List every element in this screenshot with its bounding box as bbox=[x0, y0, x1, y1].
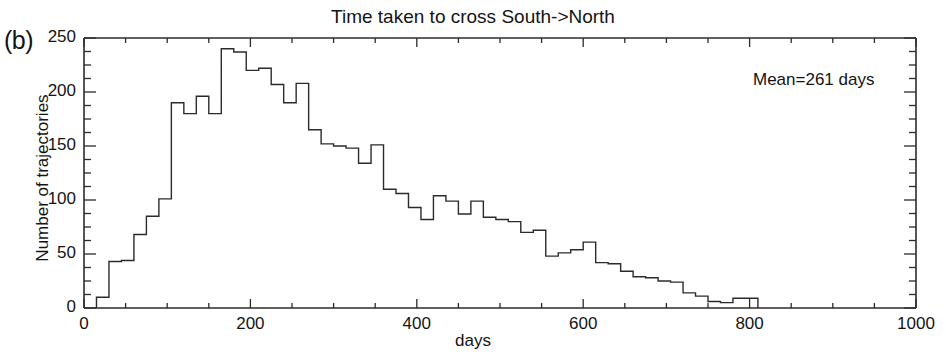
y-tick-label: 100 bbox=[12, 189, 76, 209]
x-tick-label: 200 bbox=[210, 314, 290, 334]
x-tick-label: 1000 bbox=[876, 314, 946, 334]
x-tick-label: 600 bbox=[543, 314, 623, 334]
y-tick-label: 250 bbox=[12, 27, 76, 47]
x-axis-title: days bbox=[0, 331, 946, 351]
histogram-figure: (b) Time taken to cross South->North Mea… bbox=[0, 0, 946, 357]
mean-annotation: Mean=261 days bbox=[753, 70, 874, 90]
x-tick-label: 800 bbox=[710, 314, 790, 334]
chart-title: Time taken to cross South->North bbox=[0, 6, 946, 28]
plot-area bbox=[0, 0, 946, 357]
y-tick-label: 200 bbox=[12, 81, 76, 101]
x-tick-label: 400 bbox=[377, 314, 457, 334]
histogram-step-line bbox=[96, 49, 757, 308]
y-tick-label: 150 bbox=[12, 135, 76, 155]
x-tick-label: 0 bbox=[44, 314, 124, 334]
y-tick-label: 0 bbox=[12, 297, 76, 317]
y-tick-label: 50 bbox=[12, 243, 76, 263]
